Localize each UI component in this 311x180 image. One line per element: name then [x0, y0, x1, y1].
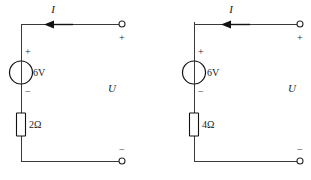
left-current-label: I [50, 3, 56, 15]
left-port-voltage-label: U [108, 82, 117, 94]
left-current-arrow-icon [44, 21, 73, 29]
circuit-left: I + − 6V 2Ω U + − [10, 3, 126, 164]
right-source-value-label: 6V [207, 67, 220, 78]
right-top-terminal-node [297, 21, 303, 27]
right-source-minus-sign: − [198, 86, 204, 97]
left-resistor-symbol [17, 113, 26, 136]
right-resistor-value-label: 4Ω [202, 119, 214, 130]
right-current-label: I [228, 3, 234, 15]
left-top-terminal-sign: + [119, 32, 125, 43]
right-top-terminal-sign: + [297, 32, 303, 43]
right-bottom-terminal-sign: − [297, 144, 303, 155]
left-source-minus-sign: − [25, 86, 31, 97]
right-current-arrow-icon [221, 21, 250, 29]
right-source-plus-sign: + [198, 46, 204, 57]
right-bottom-terminal-node [297, 158, 303, 164]
circuit-right: I + − 6V 4Ω U + − [183, 3, 304, 164]
left-source-value-label: 6V [33, 67, 46, 78]
right-resistor-symbol [190, 113, 199, 136]
circuit-diagram-figure: I + − 6V 2Ω U + − I [0, 0, 311, 180]
left-bottom-terminal-sign: − [119, 144, 125, 155]
circuit-canvas: I + − 6V 2Ω U + − I [0, 0, 311, 180]
left-resistor-value-label: 2Ω [29, 119, 41, 130]
left-bottom-terminal-node [119, 158, 125, 164]
left-source-plus-sign: + [25, 46, 31, 57]
right-port-voltage-label: U [288, 82, 297, 94]
left-top-terminal-node [119, 21, 125, 27]
